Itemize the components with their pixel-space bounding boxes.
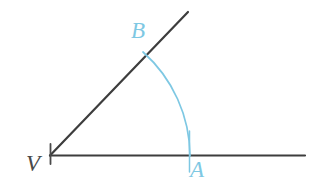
point-label-a: A: [190, 158, 204, 181]
point-label-b: B: [131, 19, 145, 42]
geometry-figure: V B A: [0, 0, 316, 185]
compass-arc: [143, 52, 190, 156]
diagram-canvas: [0, 0, 316, 185]
upper-ray-line: [50, 12, 188, 156]
vertex-label-v: V: [26, 152, 40, 175]
